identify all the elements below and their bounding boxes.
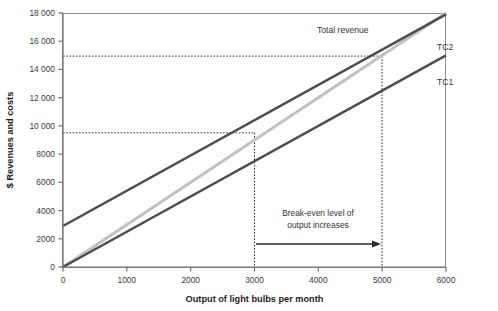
- x-axis-tick-labels: 0 1000 2000 3000 4000 5000 6000: [61, 275, 456, 285]
- chart-figure: Total revenue TC2 TC1 Break-even level o…: [0, 0, 498, 311]
- y-tick-label-6000: 6000: [36, 177, 55, 187]
- x-tick-label-4000: 4000: [309, 275, 328, 285]
- x-tick-label-5000: 5000: [373, 275, 392, 285]
- x-axis-title: Output of light bulbs per month: [186, 294, 324, 304]
- y-tick-label-14000: 14 000: [29, 64, 55, 74]
- annotation-line-1: Break-even level of: [282, 208, 354, 218]
- x-tick-label-0: 0: [61, 275, 66, 285]
- y-tick-label-0: 0: [50, 262, 55, 272]
- series-label-tc1: TC1: [437, 77, 453, 87]
- x-tick-label-1000: 1000: [117, 275, 136, 285]
- y-tick-label-16000: 16 000: [29, 36, 55, 46]
- x-tick-label-3000: 3000: [245, 275, 264, 285]
- y-axis-tick-labels: 0 2000 4000 6000 8000 10 000 12 000 14 0…: [29, 8, 55, 272]
- series-label-tc2: TC2: [437, 42, 453, 52]
- y-tick-label-8000: 8000: [36, 149, 55, 159]
- break-even-line-chart: Total revenue TC2 TC1 Break-even level o…: [0, 0, 498, 311]
- y-tick-label-4000: 4000: [36, 206, 55, 216]
- x-tick-label-6000: 6000: [437, 275, 456, 285]
- y-tick-label-12000: 12 000: [29, 93, 55, 103]
- y-tick-label-2000: 2000: [36, 234, 55, 244]
- y-tick-label-10000: 10 000: [29, 121, 55, 131]
- y-axis-title: $ Revenues and costs: [5, 92, 15, 189]
- series-label-total-revenue: Total revenue: [317, 25, 369, 35]
- x-tick-label-2000: 2000: [181, 275, 200, 285]
- annotation-line-2: output increases: [287, 220, 348, 230]
- y-tick-label-18000: 18 000: [29, 8, 55, 18]
